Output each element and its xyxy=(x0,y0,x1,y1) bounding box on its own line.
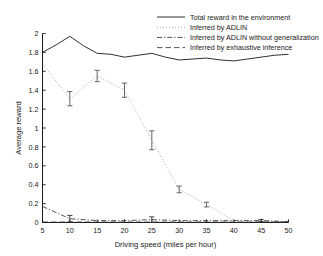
chart-plot-area: 5101520253035404550 00.20.40.60.811.21.4… xyxy=(0,0,323,256)
y-tick-label: 1.8 xyxy=(29,48,39,57)
x-tick-label: 30 xyxy=(175,226,183,235)
y-tick-label: 0.2 xyxy=(29,199,39,208)
y-tick-label: 0.4 xyxy=(29,180,39,189)
y-axis-title: Average reward xyxy=(14,101,23,154)
series-group xyxy=(43,36,289,222)
legend-label-1: Inferred by ADLIN xyxy=(190,23,247,32)
x-tick-label: 45 xyxy=(257,226,265,235)
y-axis-tick-labels: 00.20.40.60.811.21.41.61.82 xyxy=(29,29,39,227)
y-tick-label: 1.2 xyxy=(29,105,39,114)
x-tick-label: 10 xyxy=(66,226,74,235)
y-axis-ticks xyxy=(43,34,46,223)
y-tick-label: 2 xyxy=(35,29,39,38)
chart-figure: 5101520253035404550 00.20.40.60.811.21.4… xyxy=(0,0,323,256)
y-tick-label: 0.6 xyxy=(29,161,39,170)
series-line-2 xyxy=(43,206,289,221)
series-line-1 xyxy=(43,64,289,222)
x-tick-label: 25 xyxy=(148,226,156,235)
axis-frame xyxy=(43,34,289,223)
x-tick-label: 20 xyxy=(121,226,129,235)
x-tick-label: 15 xyxy=(93,226,101,235)
x-tick-label: 5 xyxy=(41,226,45,235)
chart-legend: Total reward in the environmentInferred … xyxy=(157,13,319,53)
x-tick-label: 35 xyxy=(203,226,211,235)
x-axis-title: Driving speed (miles per hour) xyxy=(115,240,217,249)
y-tick-label: 1.6 xyxy=(29,67,39,76)
x-axis-tick-labels: 5101520253035404550 xyxy=(41,226,293,235)
x-tick-label: 50 xyxy=(285,226,293,235)
y-tick-label: 0 xyxy=(35,218,39,227)
x-tick-label: 40 xyxy=(230,226,238,235)
legend-label-3: Inferred by exhaustive inference xyxy=(190,43,292,52)
y-tick-label: 1 xyxy=(35,124,39,133)
axis-group: 5101520253035404550 00.20.40.60.811.21.4… xyxy=(29,29,293,234)
y-tick-label: 0.8 xyxy=(29,143,39,152)
y-tick-label: 1.4 xyxy=(29,86,39,95)
legend-label-0: Total reward in the environment xyxy=(190,13,290,22)
errorbar-group xyxy=(67,70,264,222)
legend-label-2: Inferred by ADLIN without generalization xyxy=(190,33,319,42)
